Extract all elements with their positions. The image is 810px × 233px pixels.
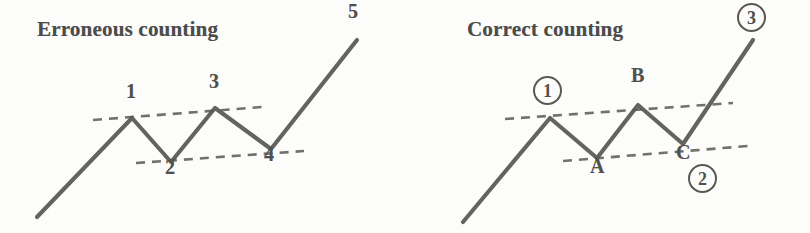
correct-counting-chart	[405, 0, 810, 233]
wave-counting-figure: Erroneous counting 1 2 3 4 5 Correct cou…	[0, 0, 810, 233]
point-label-2: 2	[165, 156, 175, 179]
point-label-c: C	[676, 141, 690, 164]
upper-trendline	[505, 103, 733, 119]
point-label-b: B	[631, 64, 644, 87]
price-path	[37, 40, 357, 217]
point-label-circled-1: 1	[533, 76, 562, 105]
point-label-circled-2: 2	[688, 164, 717, 193]
point-label-1: 1	[126, 80, 136, 103]
point-label-4: 4	[264, 143, 274, 166]
panel-correct-counting: Correct counting 1 A B C 2 3	[405, 0, 810, 233]
point-label-5: 5	[348, 0, 358, 23]
panel-erroneous-counting: Erroneous counting 1 2 3 4 5	[0, 0, 405, 233]
point-label-circled-3: 3	[737, 3, 766, 32]
point-label-a: A	[590, 155, 604, 178]
upper-trendline	[93, 107, 262, 120]
erroneous-counting-chart	[0, 0, 405, 233]
point-label-3: 3	[209, 70, 219, 93]
price-path	[463, 40, 753, 222]
